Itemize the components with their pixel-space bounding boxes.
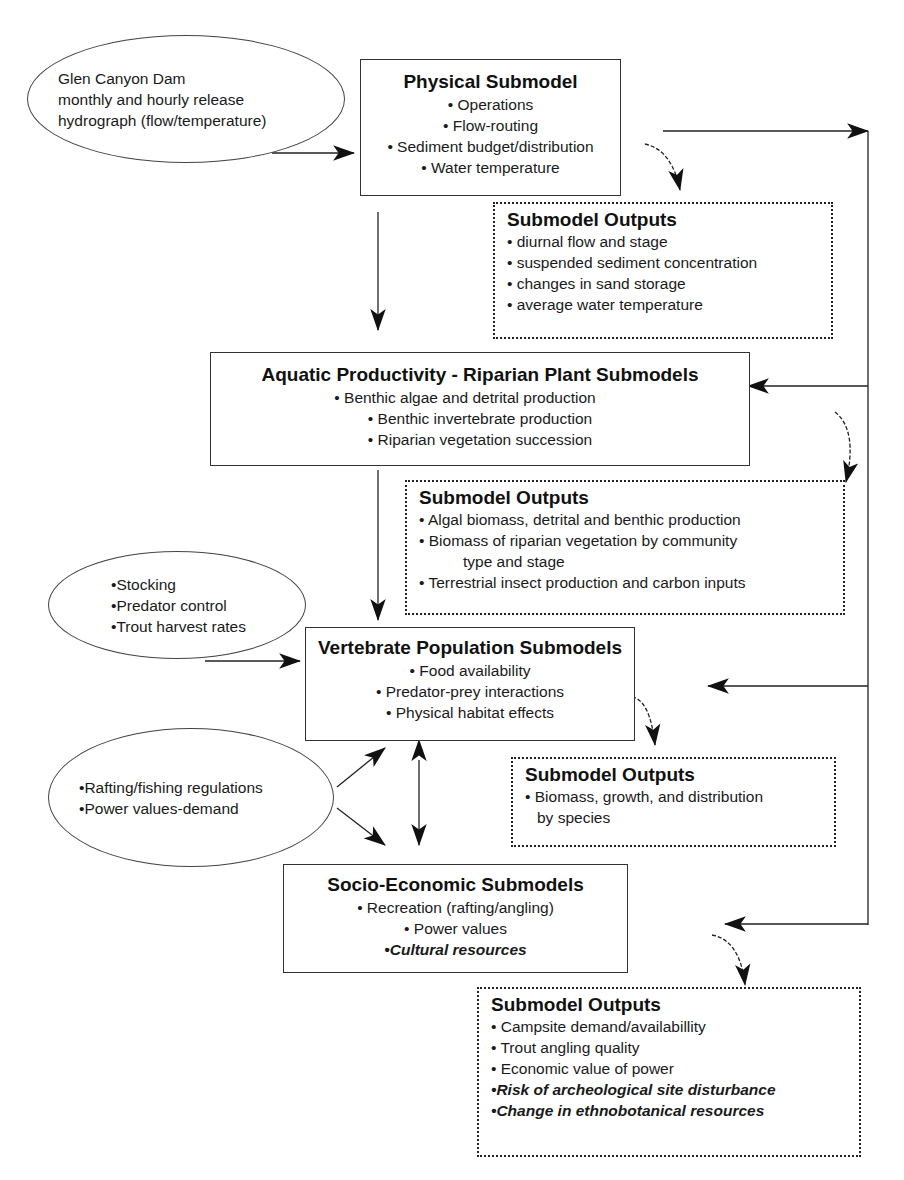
vertebrate-item: • Food availability (306, 660, 634, 681)
aquatic-item: • Riparian vegetation succession (211, 429, 749, 450)
vertebrate-item: • Predator-prey interactions (306, 681, 634, 702)
aquatic-output-item: • Biomass of riparian vegetation by comm… (419, 530, 833, 551)
aquatic-output-item: • Algal biomass, detrital and benthic pr… (419, 509, 833, 530)
arrow-socio-to-outputs (712, 935, 745, 985)
physical-output-item: • diurnal flow and stage (507, 231, 821, 252)
aquatic-output-item: • Terrestrial insect production and carb… (419, 572, 833, 593)
management-line-1: •Stocking (111, 574, 305, 595)
socio-item-emphasized: •Cultural resources (284, 939, 627, 960)
arrow-vertebrate-to-outputs (632, 697, 655, 745)
dam-release-line-1: Glen Canyon Dam (58, 68, 344, 89)
aquatic-outputs-title: Submodel Outputs (419, 486, 833, 509)
aquatic-item: • Benthic algae and detrital production (181, 387, 749, 408)
vertebrate-submodel-title: Vertebrate Population Submodels (306, 636, 634, 660)
dam-release-ellipse: Glen Canyon Dam monthly and hourly relea… (27, 35, 345, 163)
arrow-physical-to-outputs (645, 144, 680, 190)
physical-item: • Flow-routing (361, 115, 620, 136)
vertebrate-output-item: • Biomass, growth, and distribution (525, 786, 824, 807)
aquatic-submodel-box: Aquatic Productivity - Riparian Plant Su… (210, 352, 750, 466)
vertebrate-output-item-continuation: by species (525, 807, 824, 828)
aquatic-output-item-continuation: type and stage (419, 551, 833, 572)
socio-economic-outputs-box: Submodel Outputs • Campsite demand/avail… (477, 987, 861, 1157)
physical-outputs-title: Submodel Outputs (507, 208, 821, 231)
management-line-3: •Trout harvest rates (111, 616, 305, 637)
physical-submodel-title: Physical Submodel (361, 70, 620, 94)
physical-output-item: • suspended sediment concentration (507, 252, 821, 273)
socio-output-item: • Trout angling quality (491, 1037, 849, 1058)
physical-item: • Operations (361, 94, 620, 115)
vertebrate-outputs-box: Submodel Outputs • Biomass, growth, and … (511, 757, 836, 847)
arrow-regulations-to-vertebrate (337, 748, 385, 787)
aquatic-item: • Benthic invertebrate production (211, 408, 749, 429)
physical-output-item: • changes in sand storage (507, 273, 821, 294)
socio-output-item-emphasized: •Change in ethnobotanical resources (491, 1100, 849, 1121)
dam-release-line-2: monthly and hourly release (58, 89, 344, 110)
vertebrate-submodel-box: Vertebrate Population Submodels • Food a… (305, 627, 635, 741)
socio-output-item: • Campsite demand/availabillity (491, 1016, 849, 1037)
socio-economic-submodel-box: Socio-Economic Submodels • Recreation (r… (283, 864, 628, 973)
management-line-2: •Predator control (111, 595, 305, 616)
socio-economic-submodel-title: Socio-Economic Submodels (284, 873, 627, 897)
arrow-aquatic-to-outputs (835, 412, 850, 482)
socio-outputs-title: Submodel Outputs (491, 993, 849, 1016)
management-actions-ellipse: •Stocking •Predator control •Trout harve… (48, 551, 306, 659)
aquatic-outputs-box: Submodel Outputs • Algal biomass, detrit… (405, 480, 845, 615)
regulations-ellipse: •Rafting/fishing regulations •Power valu… (48, 728, 334, 867)
arrow-regulations-to-socio (337, 808, 385, 845)
socio-item: • Power values (284, 918, 627, 939)
aquatic-submodel-title: Aquatic Productivity - Riparian Plant Su… (211, 363, 749, 387)
vertebrate-item: • Physical habitat effects (306, 702, 634, 723)
socio-item: • Recreation (rafting/angling) (284, 897, 627, 918)
physical-output-item: • average water temperature (507, 294, 821, 315)
dam-release-line-3: hydrograph (flow/temperature) (58, 110, 344, 131)
socio-output-item-emphasized: •Risk of archeological site disturbance (491, 1079, 849, 1100)
physical-outputs-box: Submodel Outputs • diurnal flow and stag… (493, 202, 833, 339)
regulations-line-1: •Rafting/fishing regulations (79, 777, 333, 798)
physical-item: • Water temperature (361, 157, 620, 178)
vertebrate-outputs-title: Submodel Outputs (525, 763, 824, 786)
regulations-line-2: •Power values-demand (79, 798, 333, 819)
physical-submodel-box: Physical Submodel • Operations • Flow-ro… (360, 59, 621, 196)
socio-output-item: • Economic value of power (491, 1058, 849, 1079)
physical-item: • Sediment budget/distribution (361, 136, 620, 157)
